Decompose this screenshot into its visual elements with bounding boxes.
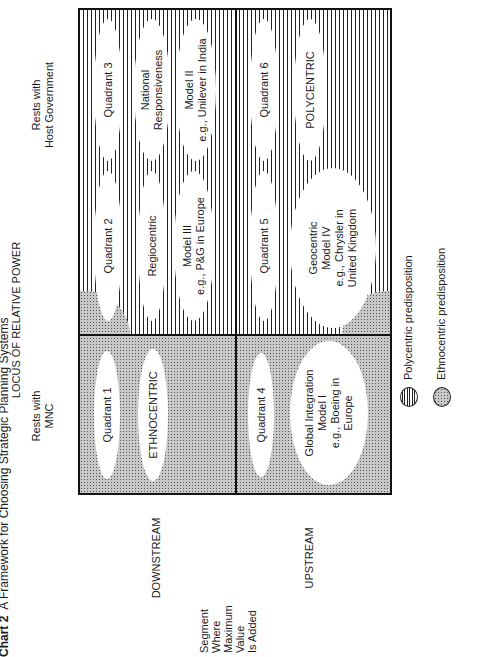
quadrant-3-orientation: National Responsiveness (134, 19, 170, 161)
quadrant-6-label: Quadrant 6 (250, 19, 278, 161)
downstream-upstream-divider (235, 10, 237, 493)
quadrant-4-orientation-text: Global Integration (303, 370, 316, 457)
quadrant-2-orientation: Regiocentric (138, 171, 166, 321)
quadrant-2-model: Model III e.g., P&G in Europe (174, 171, 214, 321)
polycentric-legend-icon (400, 387, 418, 407)
quadrant-5-label: Quadrant 5 (250, 171, 278, 321)
quadrant-2-label: Quadrant 2 (94, 171, 122, 321)
quadrant-4-model-name: Model I (316, 395, 329, 431)
downstream-label: DOWNSTREAM (150, 503, 163, 613)
quadrant-3-label: Quadrant 3 (94, 19, 122, 161)
quadrant-2-model-name: Model III (181, 225, 194, 267)
chart-number: Chart 2 (0, 616, 11, 657)
quadrant-5-model-name: Model IV (320, 226, 333, 269)
ethnocentric-legend-icon (433, 387, 451, 407)
upstream-label: UPSTREAM (303, 503, 316, 613)
quadrant-4-label: Quadrant 4 (248, 353, 274, 477)
rests-with-mnc-label: Rests with MNC (30, 356, 56, 476)
quadrant-6-orientation: POLYCENTRIC (294, 19, 326, 161)
quadrant-5-orientation: Geocentric Model IV e.g., Chrysler in Un… (290, 168, 376, 328)
ethnocentric-legend-label: Ethnocentric predisposition (435, 248, 447, 380)
quadrant-4-example: e.g., Boeing in Europe (329, 378, 355, 448)
quadrant-5-example: e.g., Chrysler in United Kingdom (333, 209, 359, 287)
locus-of-power-label: LOCUS OF RELATIVE POWER (10, 220, 23, 420)
quadrant-grid: Quadrant 1 ETHNOCENTRIC Quadrant 2 Regio… (78, 8, 392, 495)
quadrant-3-model: Model II e.g., Unilever in India (176, 19, 216, 161)
quadrant-2-example: e.g., P&G in Europe (194, 197, 207, 295)
polycentric-legend-label: Polycentric predisposition (402, 255, 414, 380)
rests-with-host-government-label: Rests with Host Government (30, 45, 56, 165)
quadrant-3-example: e.g., Unilever in India (196, 38, 209, 141)
quadrant-3-model-name: Model II (183, 70, 196, 109)
quadrant-4-orientation: Global Integration Model I e.g., Boeing … (290, 341, 368, 485)
quadrant-1-label: Quadrant 1 (94, 351, 120, 479)
quadrant-5-orientation-text: Geocentric (307, 221, 320, 274)
quadrant-1-orientation: ETHNOCENTRIC (138, 349, 168, 481)
segment-axis-label: Segment Where Maximum Value Is Added (198, 593, 258, 653)
